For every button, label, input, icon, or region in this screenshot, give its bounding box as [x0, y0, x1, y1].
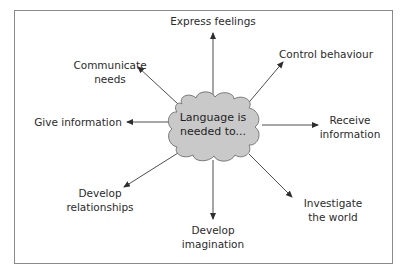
center-label: Language is needed to...	[180, 111, 247, 139]
node-develop-imagination: Develop imagination	[182, 223, 244, 251]
node-label: Express feelings	[170, 14, 256, 28]
node-receive-information: Receive information	[320, 113, 381, 141]
node-label-line1: Receive	[320, 113, 381, 127]
node-label-line1: Communicate	[73, 58, 146, 72]
arrow-develop-relationships	[124, 153, 178, 187]
node-communicate-needs: Communicate needs	[73, 58, 146, 86]
node-label-line1: Develop	[182, 223, 244, 237]
node-label-line1: Investigate	[304, 196, 363, 210]
node-investigate-the-world: Investigate the world	[304, 196, 363, 224]
node-label-line2: the world	[304, 210, 363, 224]
node-give-information: Give information	[34, 115, 122, 129]
node-label-line2: relationships	[66, 200, 133, 214]
node-label: Control behaviour	[279, 47, 373, 61]
node-develop-relationships: Develop relationships	[66, 186, 133, 214]
arrow-investigate-the-world	[249, 154, 292, 197]
node-label: Give information	[34, 115, 122, 129]
center-label-line1: Language is	[180, 111, 247, 125]
node-control-behaviour: Control behaviour	[279, 47, 373, 61]
node-express-feelings: Express feelings	[170, 14, 256, 28]
center-label-line2: needed to...	[180, 125, 247, 139]
node-label-line2: needs	[73, 72, 146, 86]
node-label-line2: imagination	[182, 237, 244, 251]
node-label-line1: Develop	[66, 186, 133, 200]
arrow-control-behaviour	[245, 62, 283, 107]
node-label-line2: information	[320, 127, 381, 141]
